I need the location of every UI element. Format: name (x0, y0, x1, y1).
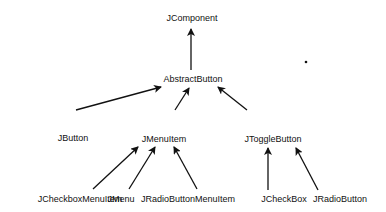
inheritance-arrow-jmenuitem-to-abstractbutton (175, 88, 189, 110)
node-jcomponent: JComponent (166, 14, 217, 23)
inheritance-arrow-jradiobuttonmenuitem-to-jmenuitem (174, 147, 197, 189)
inheritance-arrow-jcheckboxmenuitem-to-jmenuitem (93, 147, 138, 189)
inheritance-arrow-jmenu-to-jmenuitem (129, 147, 155, 189)
inheritance-arrow-jbutton-to-abstractbutton (76, 87, 161, 110)
node-jradiobutton: JRadioButton (313, 195, 367, 204)
stray-dot (305, 61, 308, 64)
node-jmenuitem: JMenuItem (142, 135, 187, 144)
inheritance-arrow-jradiobutton-to-jtogglebutton (296, 148, 318, 190)
node-abstractbutton: AbstractButton (163, 75, 222, 84)
inheritance-arrow-jtogglebutton-to-abstractbutton (218, 87, 247, 110)
node-jcheckbox: JCheckBox (261, 195, 307, 204)
edges-layer (0, 0, 386, 212)
node-jmenu: JMenu (107, 195, 134, 204)
node-jtogglebutton: JToggleButton (244, 135, 301, 144)
node-jradiobuttonmenuitem: JRadioButtonMenuItem (141, 195, 235, 204)
node-jbutton: JButton (58, 134, 89, 143)
